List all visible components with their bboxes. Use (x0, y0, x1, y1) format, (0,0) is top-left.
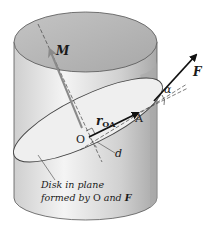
force-label: F (192, 65, 203, 79)
distance-d-label: d (115, 147, 122, 160)
point-a-label: A (134, 112, 144, 125)
cylinder-top (14, 12, 157, 72)
caption-line-2: formed by O and F (40, 192, 133, 203)
caption-line-1: Disk in plane (40, 179, 104, 190)
origin-label: O (76, 133, 85, 146)
angle-alpha-label: α (164, 83, 172, 96)
moment-label: M (55, 44, 70, 58)
force-arrow (154, 55, 196, 101)
moment-diagram: M F α rOA O A d Disk in plane formed by … (0, 0, 211, 227)
